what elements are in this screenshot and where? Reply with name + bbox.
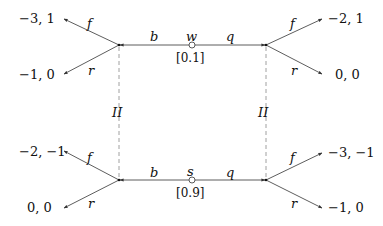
node-tl: [118, 44, 121, 47]
payoff-top-right-r: 0, 0: [335, 68, 360, 81]
action-f-tr: f: [290, 17, 295, 30]
node-br: [265, 179, 268, 182]
action-f-br: f: [290, 151, 295, 164]
info-set-label-right: II: [258, 106, 268, 119]
payoff-bottom-left-r: 0, 0: [27, 201, 52, 214]
action-b-bottom: b: [150, 166, 158, 179]
action-r-tl: r: [88, 64, 94, 77]
payoff-bottom-right-r: −1, 0: [328, 201, 364, 214]
nature-prob-s: [0.9]: [176, 187, 204, 199]
action-r-tr: r: [291, 64, 297, 77]
action-q-bottom: q: [226, 166, 234, 179]
nature-prob-w: [0.1]: [176, 52, 204, 64]
payoff-top-right-f: −2, 1: [328, 12, 364, 25]
action-f-bl: f: [87, 151, 92, 164]
payoff-top-left-r: −1, 0: [19, 68, 55, 81]
payoff-bottom-right-f: −3, −1: [328, 146, 375, 159]
payoff-bottom-left-f: −2, −1: [19, 145, 66, 158]
node-bl: [118, 179, 121, 182]
payoff-top-left-f: −3, 1: [19, 12, 55, 25]
node-tr: [265, 44, 268, 47]
action-r-br: r: [291, 197, 297, 210]
action-f-tl: f: [87, 17, 92, 30]
info-set-label-left: II: [112, 106, 122, 119]
nature-label-w: w: [186, 30, 197, 43]
action-r-bl: r: [88, 197, 94, 210]
action-q-top: q: [226, 30, 234, 43]
action-b-top: b: [150, 30, 158, 43]
nature-label-s: s: [187, 165, 194, 178]
game-tree-diagram: w [0.1] s [0.9] b q b q II II f r f r f …: [0, 0, 383, 226]
